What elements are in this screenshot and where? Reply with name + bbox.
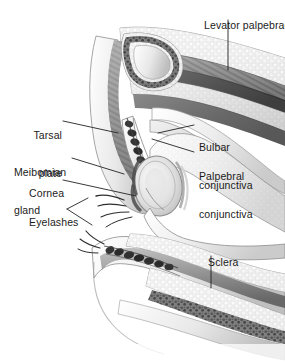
eye-anatomy-figure: Levator palpebrae Tarsal plate Meibomian… xyxy=(0,0,285,362)
label-eyelashes-text: Eyelashes xyxy=(29,216,78,228)
label-cornea-text: Cornea xyxy=(29,187,64,199)
label-palpebral-conjunctiva-line1: Palpebral xyxy=(199,170,253,183)
label-tarsal-plate-line1: Tarsal xyxy=(0,129,62,142)
bottom-fade xyxy=(0,344,285,362)
label-eyelashes: Eyelashes xyxy=(17,203,78,241)
label-sclera: Sclera xyxy=(196,243,238,281)
label-sclera-text: Sclera xyxy=(208,256,238,268)
label-levator-palpebrae-text: Levator palpebrae xyxy=(204,19,285,31)
label-levator-palpebrae: Levator palpebrae xyxy=(192,6,285,44)
label-palpebral-conjunctiva-line2: conjunctiva xyxy=(199,208,253,221)
label-palpebral-conjunctiva: Palpebral conjunctiva xyxy=(199,145,253,245)
